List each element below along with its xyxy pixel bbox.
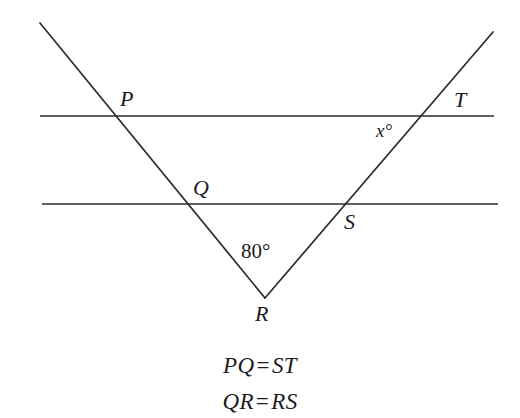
given-2-right: RS (271, 389, 297, 414)
given-1-right: ST (272, 353, 297, 378)
given-2-left: QR (222, 389, 253, 414)
angle-label-80: 80° (241, 241, 270, 262)
vertex-label-s: S (344, 211, 355, 233)
given-1-left: PQ (223, 353, 254, 378)
right-ray-rst (265, 32, 493, 298)
given-condition-1: PQ=ST (0, 348, 520, 384)
vertex-label-t: T (454, 89, 466, 111)
given-2-equals: = (254, 389, 271, 414)
given-conditions: PQ=ST QR=RS (0, 348, 520, 418)
given-condition-2: QR=RS (0, 384, 520, 418)
geometry-figure: P Q R S T x° 80° PQ=ST QR=RS (0, 0, 520, 418)
left-ray-pqr (40, 23, 265, 298)
angle-label-x: x° (376, 121, 392, 140)
vertex-label-r: R (255, 303, 268, 325)
given-1-equals: = (255, 353, 272, 378)
vertex-label-q: Q (193, 177, 209, 199)
vertex-label-p: P (120, 88, 133, 110)
